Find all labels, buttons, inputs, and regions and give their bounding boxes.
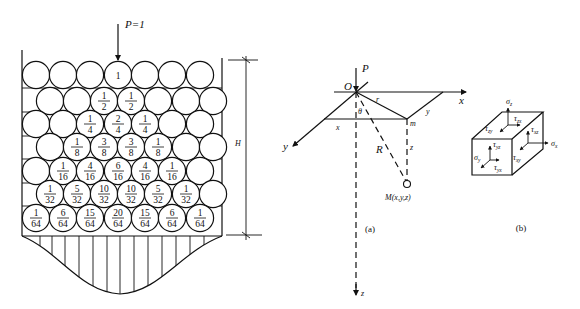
fraction-numerator: 3 [129,137,134,147]
z-axis-label: z [360,289,365,298]
ball-circle [199,180,226,207]
fraction-denominator: 16 [167,172,177,182]
fraction-numerator: 6 [170,208,175,218]
fraction-denominator: 64 [58,219,68,229]
z-segment-label: z [409,143,414,152]
fraction-numerator: 1 [88,114,93,124]
origin-label: O [344,80,352,92]
fraction-numerator: 1 [184,184,189,194]
fraction-numerator: 2 [116,114,121,124]
fraction-denominator: 8 [129,148,134,158]
fraction-denominator: 2 [102,102,107,112]
point-M-label: M(x,y,z) [384,193,411,202]
fraction-numerator: 3 [102,137,107,147]
height-dimension: H [226,56,262,240]
fraction-denominator: 32 [153,195,163,205]
fraction-numerator: 20 [113,208,123,218]
fraction-numerator: 6 [116,161,121,171]
fraction-denominator: 4 [116,125,121,135]
fraction-denominator: 16 [58,172,68,182]
fraction-numerator: 6 [61,208,66,218]
fraction-denominator: 16 [113,172,123,182]
svg-text:τyz: τyz [493,140,501,150]
ball-circle [131,61,158,88]
svg-text:τxy: τxy [513,153,521,163]
fraction-numerator: 10 [99,184,109,194]
y-axis-label: y [282,140,288,152]
figure-b-stress-element: σz τzx τzy τxz σx τxy τyz σy τyx (b) [472,97,558,233]
fraction-numerator: 1 [34,208,39,218]
ball-circle [199,133,226,160]
ball-circle [22,157,49,184]
svg-text:τzx: τzx [514,114,522,124]
fraction-numerator: 4 [88,161,93,171]
point-M-icon [404,181,411,188]
fraction-denominator: 4 [143,125,148,135]
ball-circle [76,61,103,88]
fraction-numerator: 1 [102,91,107,101]
fraction-numerator: 1 [170,161,175,171]
height-label: H [234,139,242,148]
y-axis [293,82,368,146]
pressure-distribution [22,236,222,300]
svg-text:σz: σz [506,97,513,107]
fraction-denominator: 64 [140,219,150,229]
R-label: R [375,143,383,155]
svg-text:σx: σx [551,139,558,149]
fraction-denominator: 2 [129,102,134,112]
fraction-denominator: 64 [85,219,95,229]
svg-text:τzy: τzy [485,124,493,134]
fraction-denominator: 16 [85,172,95,182]
x-segment-label: x [335,123,340,132]
fraction-denominator: 8 [102,148,107,158]
fraction-denominator: 32 [72,195,82,205]
theta-label: θ [358,107,362,116]
y-segment-label: y [425,107,430,116]
fraction-numerator: 5 [156,184,161,194]
p-label: P [361,62,369,74]
fraction-denominator: 64 [167,219,177,229]
fraction-numerator: 10 [126,184,136,194]
svg-text:τxz: τxz [531,125,539,135]
fraction-numerator: 1 [156,137,161,147]
r-label: r [376,95,380,104]
fraction-denominator: 32 [181,195,191,205]
stress-distribution-diagram: P=1 112121424141838381811641661641611613… [0,0,580,309]
fraction-denominator: 64 [113,219,123,229]
fraction-denominator: 16 [140,172,150,182]
load-fraction: 1 [116,71,121,81]
ball-circle [22,61,49,88]
fraction-numerator: 4 [143,161,148,171]
fraction-numerator: 5 [75,184,80,194]
svg-text:σy: σy [474,153,481,163]
ball-circle [22,110,49,137]
ball-circle [158,110,185,137]
fraction-denominator: 4 [88,125,93,135]
ball-circle [172,87,199,114]
fraction-denominator: 8 [75,148,80,158]
fraction-numerator: 1 [61,161,66,171]
figure-a-caption: (a) [365,224,375,234]
fraction-numerator: 1 [143,114,148,124]
fraction-denominator: 64 [195,219,205,229]
figure-a-coordinates: P O x y z r x y m θ R z M(x,y,z) (a) [282,62,466,298]
fraction-numerator: 15 [85,208,95,218]
ball-circle [158,61,185,88]
load-label: P=1 [124,18,145,30]
fraction-numerator: 1 [75,137,80,147]
ball-circle [36,133,63,160]
fraction-denominator: 32 [126,195,136,205]
fraction-denominator: 64 [31,219,41,229]
fraction-numerator: 1 [198,208,203,218]
ball-circle [172,133,199,160]
balls-group: 1121214241418383818116416616416116132532… [22,61,226,231]
fraction-denominator: 32 [45,195,55,205]
fraction-denominator: 8 [156,148,161,158]
ball-pile-figure: P=1 112121424141838381811641661641611613… [22,18,262,300]
fraction-denominator: 32 [99,195,109,205]
ball-circle [49,61,76,88]
ball-circle [186,61,213,88]
fraction-numerator: 1 [48,184,53,194]
m-label: m [410,119,416,128]
svg-text:τyx: τyx [494,163,502,173]
